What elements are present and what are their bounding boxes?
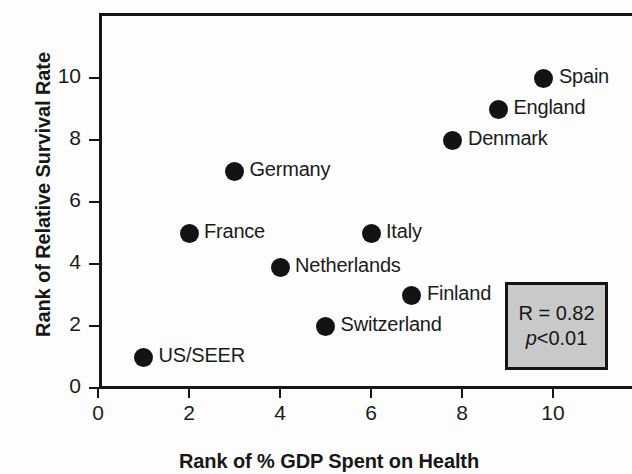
y-axis-tick-label: 6 xyxy=(29,188,81,212)
data-point-label: Netherlands xyxy=(295,254,401,277)
p-value-text: <0.01 xyxy=(537,327,588,349)
x-axis-tick-label: 6 xyxy=(341,401,401,425)
data-point-label: France xyxy=(204,220,265,243)
data-point-label: US/SEER xyxy=(159,344,245,367)
x-axis-tick xyxy=(370,388,372,398)
x-axis-title: Rank of % GDP Spent on Health xyxy=(99,450,559,473)
data-point-marker xyxy=(134,348,153,367)
y-axis-tick-label: 8 xyxy=(29,126,81,150)
p-symbol: p xyxy=(526,327,537,349)
data-point-marker xyxy=(534,69,553,88)
data-point-label: Italy xyxy=(386,220,422,243)
data-point-marker xyxy=(225,162,244,181)
y-axis-tick-label: 10 xyxy=(29,64,81,88)
x-axis-tick-label: 0 xyxy=(68,401,128,425)
x-axis-tick xyxy=(279,388,281,398)
statistics-box: R = 0.82 p<0.01 xyxy=(505,282,608,370)
y-axis-tick xyxy=(89,201,100,203)
y-axis-tick xyxy=(89,263,100,265)
x-axis-tick xyxy=(552,388,554,398)
data-point-label: Finland xyxy=(427,282,491,305)
data-point-label: Germany xyxy=(250,158,331,181)
y-axis-tick-label: 4 xyxy=(29,250,81,274)
data-point-label: Spain xyxy=(559,65,609,88)
x-axis-tick xyxy=(188,388,190,398)
data-point-marker xyxy=(271,258,290,277)
data-point-marker xyxy=(443,131,462,150)
data-point-label: Switzerland xyxy=(341,313,442,336)
x-axis-tick-label: 2 xyxy=(159,401,219,425)
y-axis-tick xyxy=(89,325,100,327)
data-point-label: England xyxy=(513,96,585,119)
x-axis-tick-label: 4 xyxy=(250,401,310,425)
data-point-marker xyxy=(489,100,508,119)
correlation-value: R = 0.82 xyxy=(518,301,594,326)
y-axis-tick xyxy=(89,139,100,141)
y-axis-tick-label: 0 xyxy=(29,374,81,398)
y-axis-tick-label: 2 xyxy=(29,312,81,336)
y-axis-tick xyxy=(89,77,100,79)
y-axis-tick xyxy=(89,387,100,389)
data-point-label: Denmark xyxy=(468,127,548,150)
data-point-marker xyxy=(180,224,199,243)
data-point-marker xyxy=(402,286,421,305)
x-axis-tick-label: 8 xyxy=(432,401,492,425)
x-axis-tick xyxy=(461,388,463,398)
data-point-marker xyxy=(316,317,335,336)
x-axis-tick-label: 10 xyxy=(523,401,583,425)
data-point-marker xyxy=(362,224,381,243)
p-value: p<0.01 xyxy=(526,326,588,351)
scatter-plot-figure: Rank of Relative Survival Rate 024681002… xyxy=(0,0,632,474)
x-axis-tick xyxy=(97,388,99,398)
